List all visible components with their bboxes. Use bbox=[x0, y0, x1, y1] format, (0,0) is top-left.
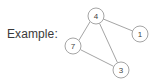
edge-4-3 bbox=[100, 23, 118, 62]
edge-4-1 bbox=[103, 19, 132, 31]
edge-4-7 bbox=[79, 21, 91, 40]
node-label-3: 3 bbox=[119, 66, 124, 75]
graph-edges bbox=[79, 19, 133, 66]
graph-node-4[interactable]: 4 bbox=[88, 8, 104, 24]
edge-7-3 bbox=[81, 50, 114, 67]
graph-node-7[interactable]: 7 bbox=[65, 38, 81, 54]
graph-node-1[interactable]: 1 bbox=[132, 26, 148, 42]
example-graph-figure: Example: 4 1 7 3 bbox=[0, 0, 153, 84]
node-label-4: 4 bbox=[94, 12, 99, 21]
node-label-7: 7 bbox=[71, 42, 76, 51]
graph-diagram: 4 1 7 3 bbox=[0, 0, 153, 84]
node-label-1: 1 bbox=[138, 30, 143, 39]
graph-nodes: 4 1 7 3 bbox=[65, 8, 148, 78]
graph-node-3[interactable]: 3 bbox=[113, 62, 129, 78]
